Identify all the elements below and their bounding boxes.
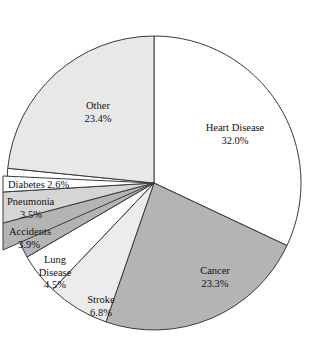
slice-label-lung-disease-value: 4.5% (24, 279, 86, 292)
slice-label-stroke-name: Stroke (70, 294, 132, 307)
slice-label-pneumonia: Pneumonia 3.5% (7, 196, 85, 221)
slice-label-stroke: Stroke 6.8% (70, 294, 132, 319)
slice-label-cancer-name: Cancer (175, 265, 255, 278)
slice-label-diabetes: Diabetes 2.6% (8, 179, 104, 192)
slice-label-diabetes-text: Diabetes 2.6% (8, 179, 104, 192)
slice-label-other-value: 23.4% (61, 113, 135, 126)
slice-label-other-name: Other (61, 100, 135, 113)
slice-label-pneumonia-name: Pneumonia (7, 196, 85, 209)
slice-label-pneumonia-value: 3.5% (7, 209, 85, 222)
slice-label-other: Other 23.4% (61, 100, 135, 125)
slice-label-heart-disease-value: 32.0% (185, 135, 285, 148)
slice-label-lung-disease-name-line2: Disease (24, 267, 86, 280)
slice-label-heart-disease-name: Heart Disease (185, 122, 285, 135)
slice-label-lung-disease-name-line1: Lung (24, 254, 86, 267)
slice-label-cancer-value: 23.3% (175, 278, 255, 291)
slice-label-stroke-value: 6.8% (70, 307, 132, 320)
pie-chart-figure: Heart Disease 32.0% Cancer 23.3% Stroke … (0, 0, 328, 345)
pie-chart-graphic (0, 0, 328, 345)
slice-label-accidents-name: Accidents (9, 226, 81, 239)
slice-label-lung-disease: Lung Disease 4.5% (24, 254, 86, 292)
slice-label-accidents-value: 3.9% (9, 239, 81, 252)
slice-label-heart-disease: Heart Disease 32.0% (185, 122, 285, 147)
slice-label-cancer: Cancer 23.3% (175, 265, 255, 290)
slice-label-accidents: Accidents 3.9% (9, 226, 81, 251)
